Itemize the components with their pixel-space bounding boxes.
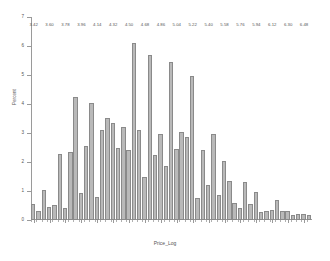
x-axis-minor-tick — [179, 220, 180, 222]
histogram-bar — [158, 134, 162, 220]
x-axis-minor-tick — [307, 220, 308, 222]
histogram-bar — [270, 210, 274, 220]
histogram-bar — [169, 62, 173, 220]
x-axis-minor-tick — [84, 220, 85, 222]
x-axis-minor-tick — [116, 220, 117, 222]
x-axis-tick-label: 4.14 — [93, 22, 101, 28]
x-axis-minor-tick — [121, 220, 122, 222]
y-axis-tick-label: 5 — [21, 71, 24, 79]
histogram-bar — [211, 134, 215, 220]
histogram-bar — [89, 103, 93, 220]
x-axis-tick-label: 5.58 — [220, 22, 228, 28]
histogram-bar — [100, 130, 104, 220]
y-axis-tick: 1 — [27, 191, 31, 192]
histogram-bar — [132, 43, 136, 220]
y-axis-tick: 2 — [27, 162, 31, 163]
x-axis-minor-tick — [222, 220, 223, 222]
histogram-bar — [63, 208, 67, 220]
histogram-bar — [153, 155, 157, 220]
x-axis-minor-tick — [280, 220, 281, 222]
x-axis-minor-tick — [47, 220, 48, 222]
x-axis-minor-tick — [285, 220, 286, 222]
x-axis-tick-label: 5.40 — [204, 22, 212, 28]
histogram-bar — [105, 118, 109, 220]
histogram-bar — [179, 132, 183, 220]
x-axis-minor-tick — [95, 220, 96, 222]
y-axis-tick: 5 — [27, 75, 31, 76]
histogram-bar — [195, 198, 199, 220]
histogram-bar — [111, 123, 115, 220]
x-axis-minor-tick — [259, 220, 260, 222]
histogram-bar — [206, 185, 210, 220]
x-axis-minor-tick — [291, 220, 292, 222]
x-axis-tick-label: 4.68 — [141, 22, 149, 28]
y-axis-tick-label: 7 — [21, 13, 24, 21]
x-axis-minor-tick — [248, 220, 249, 222]
x-axis-minor-tick — [126, 220, 127, 222]
x-axis-tick — [81, 220, 82, 223]
histogram-bar — [222, 161, 226, 220]
histogram-bar — [259, 212, 263, 220]
x-axis-minor-tick — [148, 220, 149, 222]
x-axis-minor-tick — [174, 220, 175, 222]
y-axis-title: Percent — [12, 89, 17, 105]
x-axis-minor-tick — [217, 220, 218, 222]
y-axis-tick: 7 — [27, 17, 31, 18]
y-axis-tick-label: 0 — [21, 216, 24, 224]
histogram-chart: 01234567 3.423.603.783.964.144.324.504.6… — [0, 0, 330, 261]
x-axis-tick-label: 3.42 — [29, 22, 37, 28]
x-axis-minor-tick — [270, 220, 271, 222]
x-axis-minor-tick — [232, 220, 233, 222]
x-axis-minor-tick — [296, 220, 297, 222]
x-axis-tick-label: 4.32 — [109, 22, 117, 28]
x-axis-tick-label: 5.22 — [189, 22, 197, 28]
x-axis-minor-tick — [105, 220, 106, 222]
histogram-bar — [238, 208, 242, 220]
x-axis-tick — [145, 220, 146, 223]
x-axis-tick — [240, 220, 241, 223]
x-axis-minor-tick — [79, 220, 80, 222]
y-axis-tick-label: 4 — [21, 100, 24, 108]
histogram-bar — [142, 177, 146, 221]
plot-area: 01234567 3.423.603.783.964.144.324.504.6… — [31, 17, 312, 220]
x-axis-minor-tick — [132, 220, 133, 222]
x-axis-minor-tick — [301, 220, 302, 222]
x-axis-tick-label: 6.30 — [284, 22, 292, 28]
histogram-bar — [31, 204, 35, 220]
x-axis-minor-tick — [164, 220, 165, 222]
x-axis-minor-tick — [227, 220, 228, 222]
histogram-bar — [227, 181, 231, 220]
x-axis-minor-tick — [31, 220, 32, 222]
y-axis-tick-label: 1 — [21, 187, 24, 195]
x-axis-minor-tick — [185, 220, 186, 222]
x-axis-minor-tick — [211, 220, 212, 222]
x-axis-tick-label: 4.86 — [157, 22, 165, 28]
y-axis-tick-label: 3 — [21, 129, 24, 137]
x-axis-minor-tick — [63, 220, 64, 222]
x-axis-tick-label: 5.76 — [236, 22, 244, 28]
histogram-bar — [58, 154, 62, 220]
x-axis-tick — [97, 220, 98, 223]
x-axis-tick — [161, 220, 162, 223]
histogram-bar — [68, 152, 72, 220]
histogram-bar — [174, 149, 178, 220]
x-axis-minor-tick — [169, 220, 170, 222]
histogram-bar — [248, 204, 252, 220]
x-axis-tick — [177, 220, 178, 223]
histogram-bar — [164, 166, 168, 220]
histogram-bar — [52, 205, 56, 220]
x-axis-tick — [113, 220, 114, 223]
x-axis-minor-tick — [254, 220, 255, 222]
x-axis-minor-tick — [137, 220, 138, 222]
histogram-bar — [148, 55, 152, 220]
x-axis-tick-label: 6.48 — [300, 22, 308, 28]
histogram-bar — [126, 150, 130, 220]
x-axis-minor-tick — [58, 220, 59, 222]
x-axis-tick-label: 5.04 — [173, 22, 181, 28]
histogram-bar — [42, 190, 46, 220]
x-axis-tick-label: 3.96 — [77, 22, 85, 28]
histogram-bar — [73, 97, 77, 220]
x-axis-minor-tick — [111, 220, 112, 222]
y-axis-tick-label: 2 — [21, 158, 24, 166]
x-axis-minor-tick — [89, 220, 90, 222]
